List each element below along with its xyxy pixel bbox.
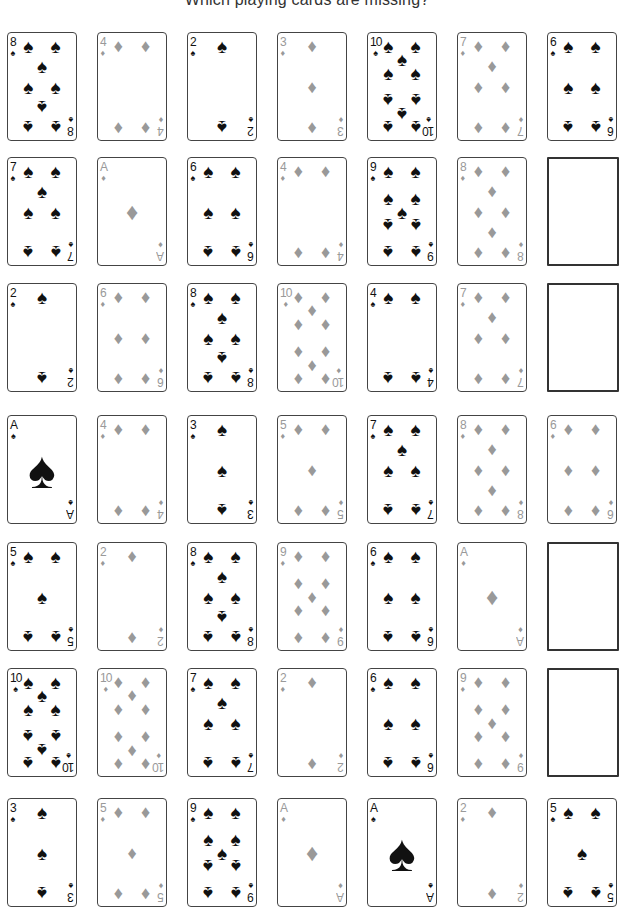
spade-icon: ♠	[203, 754, 213, 773]
spade-icon: ♠	[370, 685, 375, 694]
diamond-icon: ♦	[321, 628, 330, 646]
spade-icon: ♠	[51, 727, 61, 746]
card-corner-index: 3♦	[280, 36, 286, 58]
spade-icon: ♠	[577, 843, 587, 862]
diamond-icon: ♦	[321, 342, 330, 360]
card-rank: 10	[333, 376, 344, 388]
spade-icon: ♠	[37, 287, 47, 306]
diamond-icon: ♦	[294, 342, 303, 360]
diamond-icon: ♦	[159, 625, 164, 634]
playing-card-10-of-diamonds: 10♦10♦♦♦♦♦♦♦♦♦♦♦	[97, 668, 167, 777]
diamond-icon: ♦	[114, 329, 123, 347]
card-corner-index: 3♠	[248, 498, 254, 520]
card-rank: 3	[280, 36, 286, 48]
diamond-icon: ♦	[101, 300, 106, 309]
diamond-icon: ♦	[141, 727, 150, 745]
spade-icon: ♠	[37, 97, 47, 116]
spade-icon: ♠	[11, 432, 16, 441]
diamond-icon: ♦	[474, 37, 483, 55]
diamond-icon: ♦	[591, 461, 600, 479]
diamond-icon: ♦	[159, 366, 164, 375]
diamond-icon: ♦	[461, 174, 466, 183]
diamond-icon: ♦	[141, 118, 150, 136]
spade-icon: ♠	[203, 328, 213, 347]
diamond-icon: ♦	[338, 881, 343, 890]
diamond-icon: ♦	[501, 727, 510, 745]
spade-icon: ♠	[69, 366, 74, 375]
diamond-icon: ♦	[321, 420, 330, 438]
spade-icon: ♠	[190, 49, 195, 58]
spade-icon: ♠	[428, 881, 433, 890]
card-rank: 2	[338, 761, 344, 773]
card-rank: 7	[518, 376, 524, 388]
card-corner-index: 2♦	[158, 625, 164, 647]
spade-icon: ♠	[190, 559, 195, 568]
card-rank: 3	[10, 802, 16, 814]
card-rank: A	[10, 419, 17, 431]
spade-icon: ♠	[411, 419, 421, 438]
spade-icon: ♠	[411, 672, 421, 691]
spade-icon: ♠	[563, 77, 573, 96]
diamond-icon: ♦	[321, 574, 330, 592]
diamond-icon: ♦	[321, 162, 330, 180]
diamond-icon: ♦	[101, 174, 106, 183]
spade-icon: ♠	[397, 440, 407, 459]
playing-card-4-of-spades: 4♠4♠♠♠♠♠	[367, 283, 437, 392]
spade-icon: ♠	[429, 751, 434, 760]
spade-icon: ♠	[411, 243, 421, 262]
spade-icon: ♠	[23, 77, 33, 96]
diamond-icon: ♦	[474, 420, 483, 438]
spade-icon: ♠	[249, 115, 254, 124]
diamond-icon: ♦	[487, 57, 496, 75]
card-corner-index: 8♦	[460, 161, 466, 183]
playing-card-8-of-diamonds: 8♦8♦♦♦♦♦♦♦♦♦	[457, 157, 527, 266]
card-rank: 2	[100, 546, 106, 558]
missing-card-slot	[547, 542, 619, 651]
playing-card-2-of-diamonds: 2♦2♦♦♦	[457, 798, 527, 907]
diamond-icon: ♦	[114, 501, 123, 519]
spade-icon: ♠	[550, 815, 555, 824]
spade-icon: ♠	[51, 754, 61, 773]
card-rank: 2	[68, 376, 74, 388]
spade-icon: ♠	[37, 182, 47, 201]
card-corner-index: 6♦	[550, 419, 556, 441]
spade-icon: ♠	[203, 243, 213, 262]
card-rank: 5	[10, 546, 16, 558]
spade-icon: ♠	[51, 699, 61, 718]
card-corner-index: 3♠	[68, 881, 74, 903]
spade-icon: ♠	[609, 115, 614, 124]
card-rank: 4	[428, 376, 434, 388]
playing-card-7-of-diamonds: 7♦7♦♦♦♦♦♦♦♦	[457, 32, 527, 141]
diamond-icon: ♦	[487, 440, 496, 458]
diamond-icon: ♦	[159, 498, 164, 507]
spade-icon: ♠	[68, 498, 73, 507]
spade-icon: ♠	[203, 857, 213, 876]
spade-icon: ♠	[426, 115, 431, 124]
playing-card-2-of-diamonds: 2♦2♦♦♦	[277, 668, 347, 777]
diamond-icon: ♦	[474, 673, 483, 691]
spade-icon: ♠	[383, 36, 393, 55]
card-rank: 10	[10, 672, 21, 684]
card-rank: A	[460, 546, 467, 558]
card-corner-index: 7♦	[460, 36, 466, 58]
card-rank: 5	[100, 802, 106, 814]
diamond-icon: ♦	[321, 547, 330, 565]
diamond-icon: ♦	[501, 501, 510, 519]
diamond-icon: ♦	[127, 628, 136, 646]
spade-icon: ♠	[383, 419, 393, 438]
diamond-icon: ♦	[114, 803, 123, 821]
diamond-icon: ♦	[501, 461, 510, 479]
diamond-icon: ♦	[141, 884, 150, 902]
card-rank: 7	[68, 250, 74, 262]
spade-icon: ♠	[563, 118, 573, 137]
spade-icon: ♠	[217, 501, 227, 520]
spade-icon: ♠	[217, 693, 227, 712]
card-rank: 8	[68, 125, 74, 137]
diamond-icon: ♦	[114, 420, 123, 438]
spade-icon: ♠	[383, 628, 393, 647]
spade-icon: ♠	[23, 243, 33, 262]
card-corner-index: 4♦	[100, 419, 106, 441]
spade-icon: ♠	[231, 161, 241, 180]
diamond-icon: ♦	[474, 162, 483, 180]
diamond-icon: ♦	[519, 498, 524, 507]
